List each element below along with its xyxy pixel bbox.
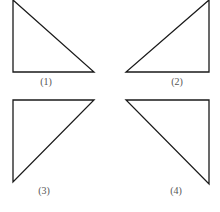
- label-3: (3): [38, 185, 50, 196]
- triangle-2: [126, 0, 209, 72]
- triangle-4: [126, 100, 209, 184]
- label-4: (4): [170, 185, 182, 196]
- triangle-diagram: [0, 0, 220, 212]
- triangle-1: [13, 0, 94, 72]
- label-2: (2): [171, 76, 183, 87]
- triangle-3: [13, 100, 94, 182]
- label-1: (1): [40, 76, 52, 87]
